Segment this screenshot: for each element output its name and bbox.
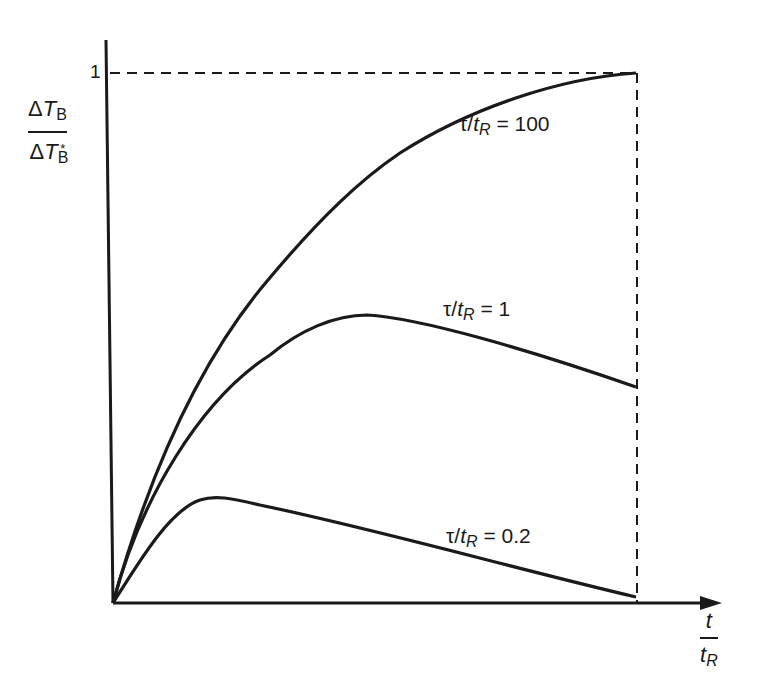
fraction-bar [700,637,718,639]
curve-label-tau-1: τ/tR = 1 [443,297,510,324]
y-tick-1: 1 [90,61,101,83]
y-axis [106,40,113,603]
curve-label-tau-0.2: τ/tR = 0.2 [446,524,531,551]
curve-tau-1 [113,315,636,603]
x-axis-label: t tR [700,608,718,674]
fraction-bar [28,131,67,133]
y-axis-label: ΔTB ΔTB* [28,96,67,171]
chart-canvas [0,0,762,676]
curve-tau-100 [113,73,636,603]
curve-tau-0.2 [113,498,636,603]
curve-label-tau-100: τ/tR = 100 [459,112,550,139]
